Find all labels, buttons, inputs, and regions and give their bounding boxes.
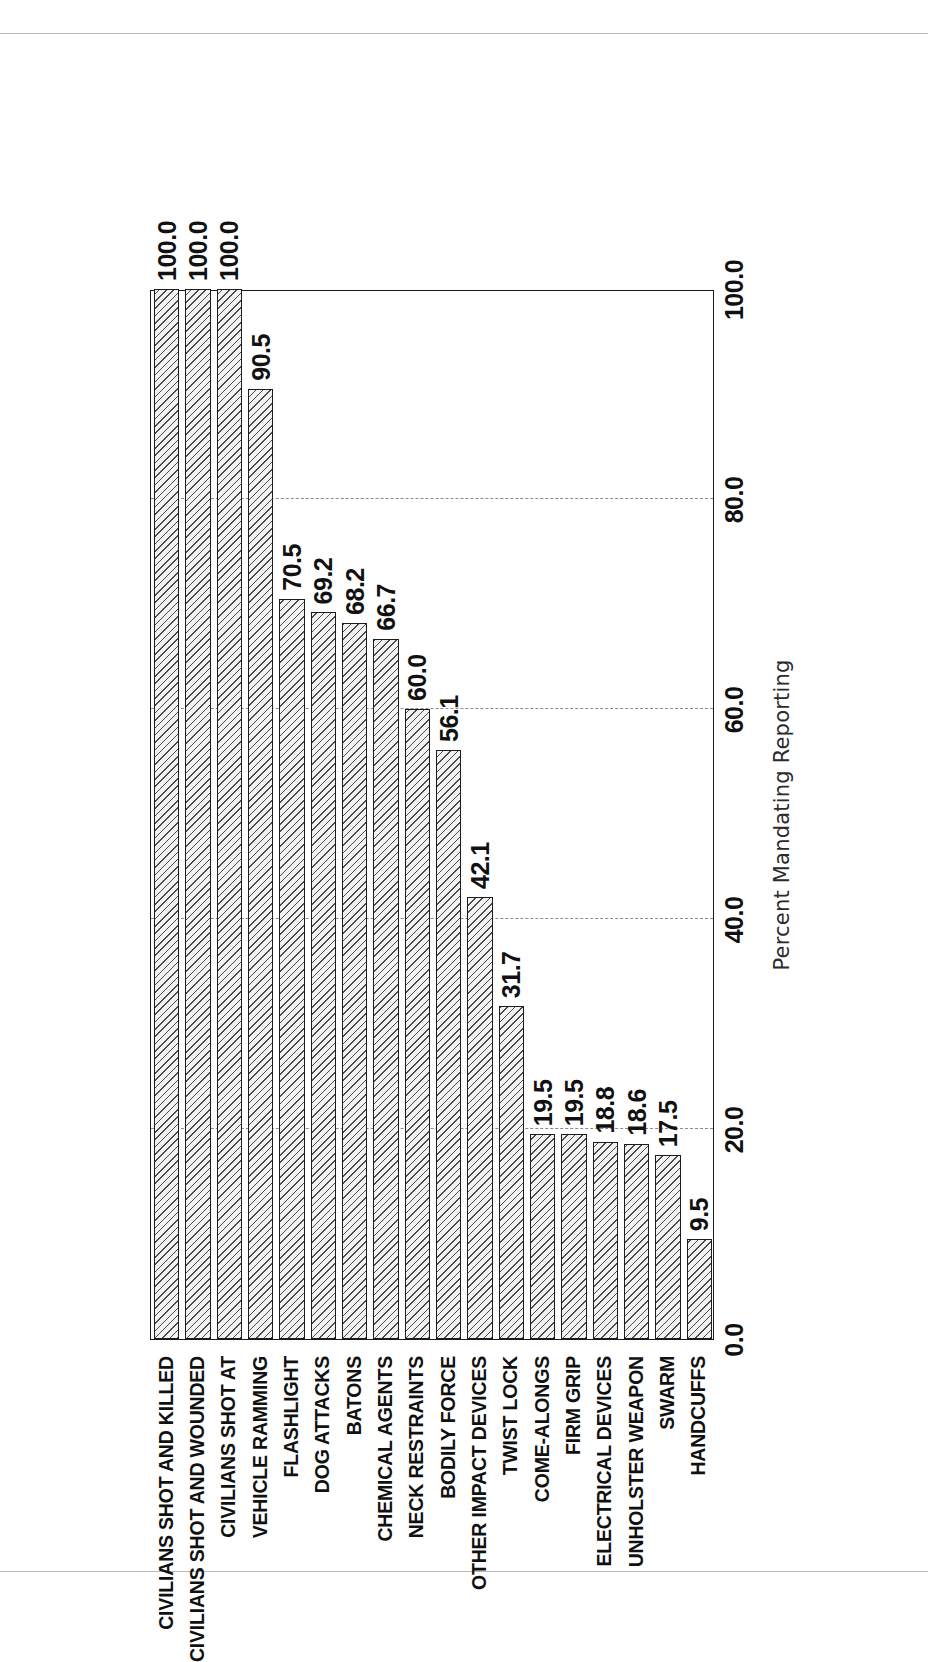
bar-value-label: 66.7 — [372, 583, 401, 630]
bar — [311, 612, 336, 1339]
category-label: UNHOLSTER WEAPON — [624, 1356, 647, 1567]
bar — [248, 388, 273, 1338]
category-label: OTHER IMPACT DEVICES — [468, 1356, 491, 1590]
bar — [217, 289, 242, 1339]
category-label: VEHICLE RAMMING — [248, 1356, 271, 1538]
category-label: FIRM GRIP — [562, 1356, 585, 1455]
bar-chart-figure: CIVILIANS SHOT AND KILLEDCIVILIANS SHOT … — [54, 110, 874, 1500]
bar-value-label: 17.5 — [654, 1100, 683, 1147]
bar — [342, 622, 367, 1338]
tick-label: 60.0 — [720, 686, 749, 733]
tick-label: 20.0 — [720, 1106, 749, 1153]
category-label: CIVILIANS SHOT AND WOUNDED — [186, 1356, 209, 1662]
tick-label: 100.0 — [720, 259, 749, 319]
bar-value-label: 69.2 — [309, 557, 338, 604]
category-axis-labels: CIVILIANS SHOT AND KILLEDCIVILIANS SHOT … — [150, 1348, 714, 1500]
bar — [467, 896, 492, 1338]
bar-value-label: 100.0 — [184, 220, 213, 280]
bar-value-label: 68.2 — [340, 568, 369, 615]
bar — [530, 1134, 555, 1339]
bar-value-label: 9.5 — [685, 1197, 714, 1230]
bar-series: 100.0100.0100.090.570.569.268.266.760.05… — [151, 291, 713, 1339]
plot-area: 100.0100.0100.090.570.569.268.266.760.05… — [150, 290, 714, 1340]
page-rule-bottom — [0, 1571, 928, 1572]
category-label: FLASHLIGHT — [280, 1356, 303, 1477]
bar — [279, 598, 304, 1338]
bar-value-label: 56.1 — [434, 695, 463, 742]
category-label: CIVILIANS SHOT AT — [217, 1356, 240, 1538]
category-label: COME-ALONGS — [530, 1356, 553, 1502]
bar — [593, 1141, 618, 1338]
category-label: SWARM — [656, 1356, 679, 1430]
bar — [405, 709, 430, 1339]
bar — [436, 749, 461, 1338]
bar — [185, 289, 210, 1339]
bar — [561, 1134, 586, 1339]
tick-label: 40.0 — [720, 896, 749, 943]
bar-value-label: 100.0 — [215, 220, 244, 280]
page-rule-top — [0, 33, 928, 34]
bar — [154, 289, 179, 1339]
bar-value-label: 100.0 — [152, 220, 181, 280]
bar-value-label: 19.5 — [560, 1079, 589, 1126]
category-label: CHEMICAL AGENTS — [374, 1356, 397, 1542]
bar — [373, 638, 398, 1338]
bar-value-label: 18.6 — [622, 1089, 651, 1136]
category-label: DOG ATTACKS — [311, 1356, 334, 1493]
tick-label: 0.0 — [720, 1323, 749, 1356]
bar-value-label: 90.5 — [246, 334, 275, 381]
bar-value-label: 70.5 — [278, 544, 307, 591]
category-label: HANDCUFFS — [687, 1356, 710, 1476]
category-label: CIVILIANS SHOT AND KILLED — [154, 1356, 177, 1630]
bar — [655, 1155, 680, 1339]
axis-title: Percent Mandating Reporting — [770, 290, 794, 1340]
bar-value-label: 19.5 — [528, 1079, 557, 1126]
tick-label: 80.0 — [720, 476, 749, 523]
value-axis-ticks: 0.020.040.060.080.0100.0 — [716, 290, 766, 1340]
category-label: ELECTRICAL DEVICES — [593, 1356, 616, 1567]
bar-value-label: 18.8 — [591, 1086, 620, 1133]
category-label: NECK RESTRAINTS — [405, 1356, 428, 1538]
bar — [499, 1006, 524, 1339]
bar — [624, 1143, 649, 1338]
category-label: TWIST LOCK — [499, 1356, 522, 1475]
category-label: BODILY FORCE — [436, 1356, 459, 1499]
category-label: BATONS — [342, 1356, 365, 1435]
bar — [687, 1239, 712, 1339]
bar-value-label: 60.0 — [403, 654, 432, 701]
bar-value-label: 31.7 — [497, 951, 526, 998]
bar-value-label: 42.1 — [466, 842, 495, 889]
